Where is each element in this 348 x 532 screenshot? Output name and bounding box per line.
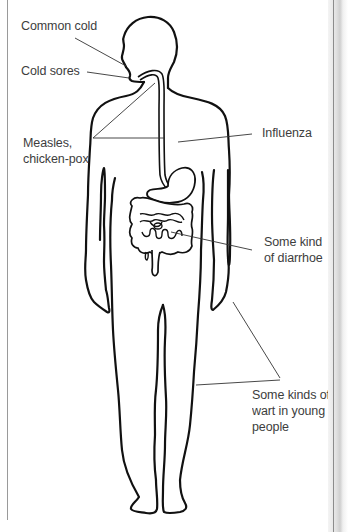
leader-measles-a — [93, 83, 155, 138]
label-measles-chickenpox: Measles, chicken-pox — [23, 135, 89, 167]
right-armpit — [202, 172, 204, 200]
label-text-line-2: of diarrhoe — [264, 250, 330, 266]
esophagus-outer — [138, 70, 170, 186]
left-inner-arm — [100, 168, 106, 290]
left-armpit — [112, 178, 115, 200]
label-influenza: Influenza — [262, 125, 312, 141]
stomach — [147, 168, 195, 203]
left-leg-inner — [154, 305, 163, 480]
label-diarrhoea: Some kind of diarrhoe — [264, 234, 330, 266]
leader-wart-b — [196, 380, 280, 385]
label-text-line-1: Measles, — [23, 135, 89, 151]
label-text: Cold sores — [21, 64, 80, 78]
label-text-line-1: Some kinds of — [252, 387, 330, 403]
label-cold-sores: Cold sores — [21, 63, 80, 79]
label-text-line-1: Some kind — [264, 234, 330, 250]
right-page-rule — [333, 0, 334, 532]
label-common-cold: Common cold — [21, 18, 97, 34]
label-text: Common cold — [21, 19, 97, 33]
label-text-line-2: wart in young — [252, 403, 330, 419]
leader-wart-a — [233, 302, 280, 378]
body-figure — [0, 0, 348, 532]
right-inner-arm — [211, 170, 228, 310]
label-text-line-3: people — [252, 419, 330, 435]
leader-cold-sores — [87, 72, 129, 78]
diagram-page: Common cold Cold sores Measles, chicken-… — [0, 0, 348, 532]
large-intestine — [130, 197, 193, 254]
leader-influenza — [178, 134, 252, 142]
label-warts: Some kinds of wart in young people — [252, 387, 330, 435]
label-text: Influenza — [262, 126, 312, 140]
right-leg-inner — [163, 305, 186, 513]
rectum — [152, 250, 160, 276]
page-gutter — [328, 0, 348, 532]
label-text-line-2: chicken-pox — [23, 151, 89, 167]
leader-common-cold — [75, 38, 126, 66]
